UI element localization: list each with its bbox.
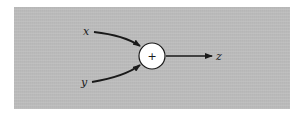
output-label-z: z bbox=[215, 50, 222, 63]
edge-x-to-sum bbox=[94, 32, 140, 46]
input-label-x: x bbox=[83, 25, 90, 38]
summing-junction-diagram: + x y z bbox=[0, 0, 306, 114]
edge-y-to-sum bbox=[92, 65, 140, 82]
input-label-y: y bbox=[80, 76, 88, 89]
plus-icon: + bbox=[147, 50, 156, 63]
